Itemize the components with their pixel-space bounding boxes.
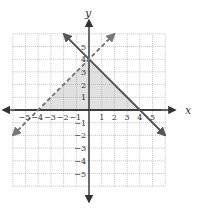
y-tick-label: −3	[74, 144, 86, 153]
x-tick-label: −4	[31, 113, 43, 122]
y-tick-label: −4	[74, 157, 86, 166]
y-tick-label: −1	[74, 119, 86, 128]
x-tick-label: −3	[44, 113, 56, 122]
x-axis-label: x	[185, 104, 192, 117]
y-tick-label: 3	[81, 68, 86, 77]
x-tick-label: −2	[57, 113, 69, 122]
graph: −5−4−3−2−11234554321−1−2−3−4−5 xy	[0, 0, 197, 209]
x-tick-label: 1	[99, 113, 104, 122]
y-tick-label: −2	[74, 131, 86, 140]
axes	[3, 20, 175, 202]
x-tick-label: 2	[112, 113, 117, 122]
x-tick-label: 3	[125, 113, 130, 122]
y-tick-label: 1	[81, 93, 86, 102]
x-tick-label: 4	[137, 113, 142, 122]
y-tick-label: 5	[81, 43, 86, 52]
y-axis-label: y	[84, 7, 92, 20]
y-tick-label: −5	[74, 170, 86, 179]
x-tick-label: −5	[19, 113, 31, 122]
y-tick-label: 4	[81, 55, 86, 64]
y-tick-label: 2	[81, 81, 86, 90]
x-tick-label: 5	[150, 113, 155, 122]
